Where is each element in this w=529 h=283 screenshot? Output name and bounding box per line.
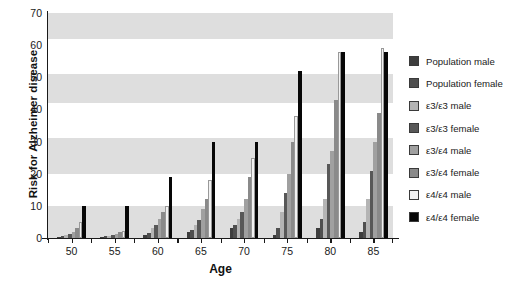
plot-area — [48, 13, 393, 238]
x-tick-mark — [91, 238, 92, 243]
legend-label: Population male — [426, 56, 495, 67]
legend-swatch — [409, 56, 419, 66]
bar — [298, 71, 302, 238]
legend-label: ε3/ε3 female — [426, 123, 479, 134]
y-tick-label: 70 — [30, 7, 42, 19]
y-tick-label: 60 — [30, 39, 42, 51]
legend-item[interactable]: ε3/ε4 female — [409, 161, 527, 183]
legend-item[interactable]: ε3/ε3 female — [409, 117, 527, 139]
x-tick-mark — [244, 238, 245, 243]
x-tick-label: 50 — [66, 245, 78, 257]
bar — [169, 177, 173, 238]
x-tick-mark — [330, 238, 331, 243]
legend-label: ε4/ε4 male — [426, 189, 471, 200]
legend-swatch — [409, 123, 419, 133]
x-tick-label: 80 — [324, 245, 336, 257]
x-tick-mark — [72, 238, 73, 243]
bar — [212, 142, 216, 238]
bar-chart-figure: Risk for Alzheimer disease 0102030405060… — [0, 0, 529, 283]
y-tick-label: 10 — [30, 200, 42, 212]
bar — [125, 206, 129, 238]
bar-group — [100, 13, 129, 238]
legend-label: ε4/ε4 female — [426, 212, 479, 223]
x-tick-label: 85 — [368, 245, 380, 257]
x-tick-mark — [307, 238, 308, 243]
legend-label: Population female — [426, 78, 503, 89]
legend-label: ε3/ε4 female — [426, 167, 479, 178]
x-tick-mark — [48, 238, 49, 243]
x-tick-label: 65 — [195, 245, 207, 257]
x-tick-mark — [287, 238, 288, 243]
x-axis-title: Age — [48, 262, 393, 276]
legend-item[interactable]: ε4/ε4 male — [409, 184, 527, 206]
bar — [255, 142, 259, 238]
x-tick-mark — [373, 238, 374, 243]
legend-swatch — [409, 78, 419, 88]
y-tick-label: 50 — [30, 71, 42, 83]
bar-group — [273, 13, 302, 238]
bar — [384, 52, 388, 238]
legend-swatch — [409, 145, 419, 155]
x-tick-label: 60 — [152, 245, 164, 257]
chart-legend: Population malePopulation femaleε3/ε3 ma… — [409, 50, 527, 228]
y-tick-label: 30 — [30, 136, 42, 148]
x-tick-mark — [134, 238, 135, 243]
bar-group — [187, 13, 216, 238]
legend-swatch — [409, 190, 419, 200]
bar-group — [143, 13, 172, 238]
bar-group — [316, 13, 345, 238]
x-tick-label: 55 — [109, 245, 121, 257]
bar-group — [359, 13, 388, 238]
x-tick-label: 75 — [281, 245, 293, 257]
bar-group — [230, 13, 259, 238]
x-tick-mark — [264, 238, 265, 243]
legend-swatch — [409, 212, 419, 222]
legend-label: ε3/ε3 male — [426, 100, 471, 111]
bar-group — [57, 13, 86, 238]
x-tick-mark — [221, 238, 222, 243]
x-tick-mark — [201, 238, 202, 243]
legend-item[interactable]: ε3/ε3 male — [409, 95, 527, 117]
legend-label: ε3/ε4 male — [426, 145, 471, 156]
x-tick-mark — [350, 238, 351, 243]
legend-item[interactable]: Population female — [409, 72, 527, 94]
legend-item[interactable]: ε4/ε4 female — [409, 206, 527, 228]
legend-item[interactable]: ε3/ε4 male — [409, 139, 527, 161]
y-axis-tick-labels: 010203040506070 — [16, 0, 42, 283]
x-tick-mark — [115, 238, 116, 243]
legend-item[interactable]: Population male — [409, 50, 527, 72]
bar — [341, 52, 345, 238]
legend-swatch — [409, 168, 419, 178]
x-tick-label: 70 — [238, 245, 250, 257]
bar — [82, 206, 86, 238]
x-tick-mark — [158, 238, 159, 243]
bar-series-container — [48, 13, 393, 238]
legend-swatch — [409, 101, 419, 111]
y-tick-label: 40 — [30, 103, 42, 115]
x-tick-mark — [392, 238, 393, 243]
y-axis-line — [47, 11, 48, 240]
y-tick-label: 20 — [30, 168, 42, 180]
x-tick-mark — [177, 238, 178, 243]
